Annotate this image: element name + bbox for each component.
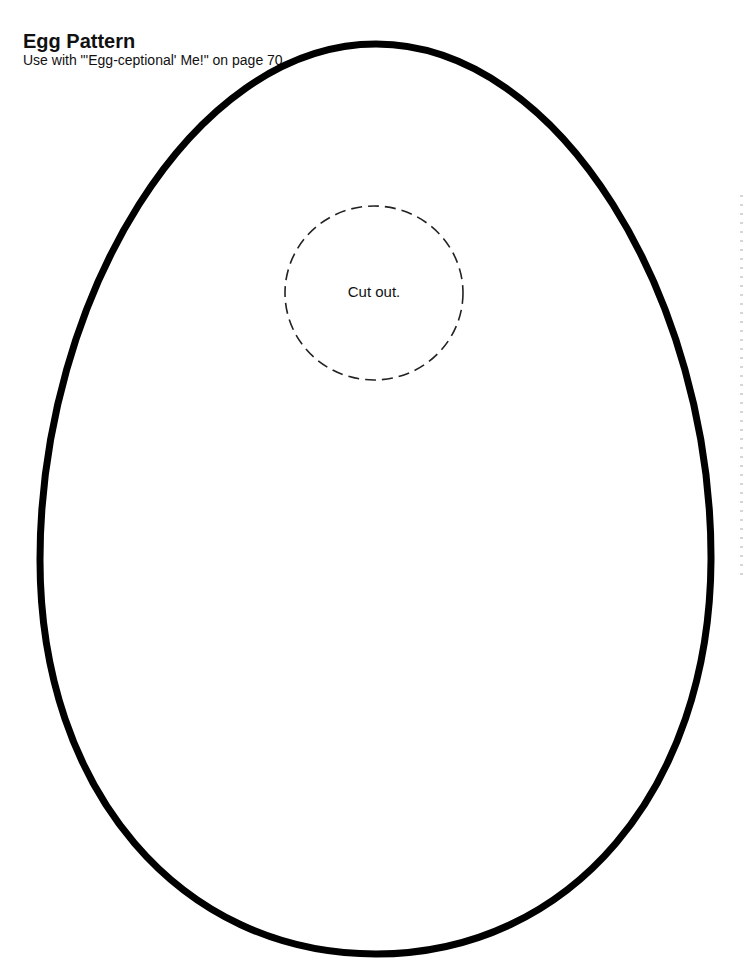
- egg-outline: [40, 44, 711, 954]
- margin-marks: [740, 195, 743, 575]
- cutout-label: Cut out.: [300, 283, 448, 300]
- egg-pattern-art: [0, 0, 745, 960]
